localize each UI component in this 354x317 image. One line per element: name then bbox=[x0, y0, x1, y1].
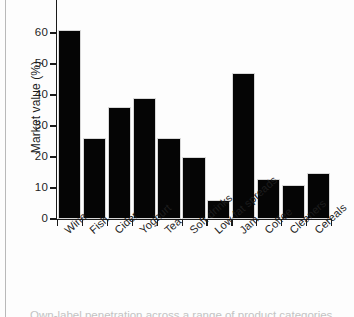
bar-wine[interactable] bbox=[58, 30, 81, 219]
bar-soft-drinks[interactable] bbox=[182, 157, 205, 219]
x-tick-mark bbox=[57, 220, 58, 226]
y-tick-label: 50 bbox=[35, 58, 48, 70]
figure-caption: Own-label penetration across a range of … bbox=[30, 309, 340, 317]
bar-yoghurt[interactable] bbox=[133, 98, 156, 219]
bar-chart-plot-area: Market value (%) 0 10 20 30 40 50 60 bbox=[0, 0, 354, 317]
y-tick-mark bbox=[50, 187, 57, 188]
y-tick-mark bbox=[50, 63, 57, 64]
y-tick-label: 20 bbox=[35, 151, 48, 163]
y-tick-label: 0 bbox=[41, 213, 48, 225]
y-tick-mark bbox=[50, 32, 57, 33]
y-tick-mark bbox=[50, 125, 57, 126]
y-tick-mark bbox=[50, 156, 57, 157]
y-tick-mark bbox=[50, 218, 57, 219]
bar-cider[interactable] bbox=[108, 107, 131, 219]
y-tick-label: 10 bbox=[35, 182, 48, 194]
chart-figure: Market value (%) 0 10 20 30 40 50 60 bbox=[0, 0, 354, 317]
y-tick-label: 40 bbox=[35, 89, 48, 101]
y-tick-mark bbox=[50, 94, 57, 95]
y-tick-label: 30 bbox=[35, 120, 48, 132]
y-tick-label: 60 bbox=[35, 27, 48, 39]
bar-fish[interactable] bbox=[83, 138, 106, 219]
y-axis-title: Market value (%) bbox=[29, 27, 43, 187]
